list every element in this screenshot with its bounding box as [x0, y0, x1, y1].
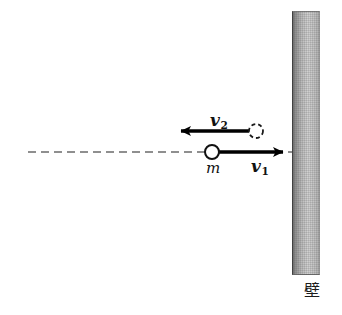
mass-label: m: [206, 161, 220, 176]
ball-at-contact: [205, 145, 219, 159]
velocity-symbol-v2: v: [210, 110, 220, 130]
velocity-label-v1: v1: [251, 158, 269, 176]
velocity-subscript-v1: 1: [261, 165, 268, 177]
velocity-label-v2: v2: [210, 112, 228, 130]
physics-collision-diagram: 壁 v2 v1 m: [0, 0, 342, 315]
velocity-subscript-v2: 2: [220, 119, 227, 131]
velocity-symbol-v1: v: [251, 156, 261, 176]
ball-before-contact: [249, 124, 263, 138]
diagram-vector-layer: [0, 0, 342, 315]
